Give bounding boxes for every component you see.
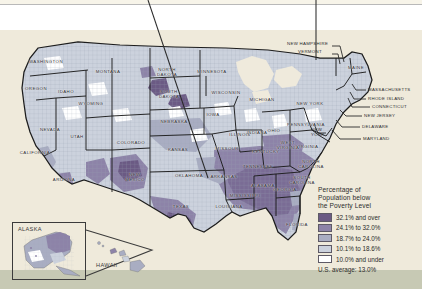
state-label: TEXAS [173,205,189,210]
state-callout-label: CONNECTICUT [372,105,407,110]
legend-title-line-2: Population below [318,194,420,202]
state-label: LOUISIANA [215,205,242,210]
state-label: GEORGIA [273,188,296,193]
state-callout-label: NEW YORK [311,128,325,137]
legend-swatch [318,245,332,253]
state-label: MISSISSIPPI [230,194,261,199]
legend-class-label: 24.1% to 32.0% [336,224,380,231]
state-label: NEBRASKA [160,120,187,125]
state-label: IOWA [206,113,219,118]
legend-row: 10.1% to 18.6% [318,244,420,253]
legend-row: 32.1% and over [318,213,420,222]
state-label: OKLAHOMA [175,174,203,179]
state-callout-label: NEW HAMPSHIRE [287,42,328,47]
state-callout-label: RHODE ISLAND [368,97,404,102]
state-label: COLORADO [117,141,145,146]
inset-connector [86,230,152,276]
state-label: KENTUCKY [252,150,279,155]
legend-swatch [318,213,332,221]
state-label: MICHIGAN [249,98,274,103]
state-label: SOUTH DAKOTA [159,90,179,99]
alaska-inset-label: ALASKA [18,226,42,232]
state-label: NORTH DAKOTA [157,68,177,77]
state-label: CALIFORNIA [20,151,50,156]
legend-class-label: 10.1% to 18.6% [336,245,380,252]
state-callout-label: MARYLAND [363,137,390,142]
legend-class-list: 32.1% and over24.1% to 32.0%18.7% to 24.… [318,213,420,264]
state-label: NEVADA [40,128,60,133]
state-label: ALABAMA [251,184,275,189]
legend-row: 24.1% to 32.0% [318,223,420,232]
state-label: WISCONSIN [211,91,240,96]
state-label: ARIZONA [53,178,75,183]
legend-row: 18.7% to 24.0% [318,234,420,243]
state-callout-label: VERMONT [298,50,322,55]
state-label: MONTANA [96,70,120,75]
state-label: UTAH [70,135,83,140]
state-callout-label: NEW JERSEY [364,114,395,119]
state-label: TENNESSEE [243,165,273,170]
state-label: IDAHO [58,90,74,95]
map-legend: Percentage of Population below the Pover… [318,186,420,273]
legend-row: 10.0% and under [318,255,420,264]
legend-swatch [318,255,332,263]
poverty-choropleth-figure: ALASKA HAWAII WASHINGTONOREGONIDAHOMONTA… [0,0,422,289]
legend-title: Percentage of Population below the Pover… [318,186,420,211]
legend-swatch [318,234,332,242]
state-label: WASHINGTON [29,60,63,65]
state-label: OHIO [268,129,281,134]
legend-swatch [318,224,332,232]
state-label: ARKANSAS [210,175,237,180]
state-label: SOUTH CAROLINA [289,176,315,185]
state-label: KANSAS [168,148,188,153]
state-label: MISSOURI [216,147,241,152]
legend-class-label: 10.0% and under [336,256,384,263]
state-label: INDIANA [247,131,268,136]
state-label: VIRGINIA [296,145,319,150]
state-label: OREGON [25,87,47,92]
legend-average-note: U.S. average: 13.0% [318,266,420,273]
state-label: MAINE [348,66,364,71]
legend-title-line-3: the Poverty Level [318,202,420,210]
state-label: NORTH CAROLINA [298,160,324,169]
legend-title-line-1: Percentage of [318,186,420,194]
state-label: NEW MEXICO [125,173,145,182]
state-label: WYOMING [79,102,104,107]
legend-class-label: 32.1% and over [336,214,380,221]
state-callout-label: DELAWARE [362,125,389,130]
state-callout-label: MASSACHUSETTS [368,88,411,93]
state-label: MINNESOTA [197,70,226,75]
legend-class-label: 18.7% to 24.0% [336,235,380,242]
state-label: FLORIDA [286,223,308,228]
hawaii-inset-label: HAWAII [96,262,118,268]
state-label: NEW YORK [296,102,323,107]
